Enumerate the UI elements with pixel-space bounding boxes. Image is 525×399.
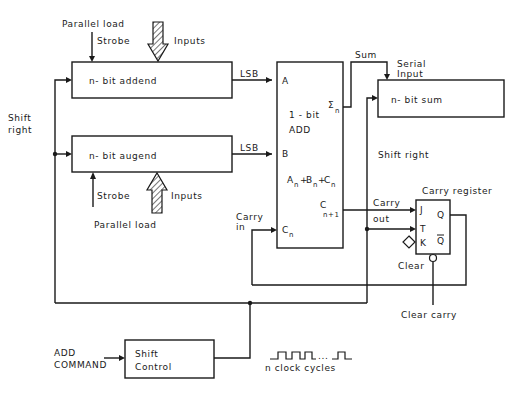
augend-lsb-arrowhead [266, 151, 272, 157]
addend-register: n- bit addend [72, 62, 232, 98]
clear-bubble-icon [430, 255, 437, 262]
carry-pin-k: K [420, 238, 427, 248]
adder-label-line2: ADD [289, 125, 311, 135]
shift-bus-right-vertical [367, 98, 372, 303]
carry-pin-q: Q [437, 210, 445, 220]
augend-shift-arrowhead [66, 151, 72, 157]
carry-in-line2: in [236, 222, 245, 232]
clear-carry-label: Clear carry [401, 310, 457, 320]
clock-label: n clock cycles [265, 363, 336, 373]
augend-register: n- bit augend [72, 136, 232, 172]
serial-input-line2: Input [397, 69, 423, 79]
serial-input-line1: Serial [397, 59, 426, 69]
adder-eq-b: B [306, 175, 313, 185]
adder-eq-a: A [287, 175, 294, 185]
addend-inputs-label: Inputs [174, 36, 206, 46]
add-command-line2: COMMAND [54, 360, 107, 370]
carry-register-title: Carry register [422, 186, 492, 196]
carry-clock-arrowhead [410, 226, 416, 232]
adder-eq-c: C [324, 175, 331, 185]
serial-adder-diagram: n- bit addend Parallel load Strobe Input… [0, 0, 525, 399]
add-command-arrowhead [119, 355, 125, 361]
augend-lsb-label: LSB [240, 143, 259, 153]
shift-right-label-line1: Shift [8, 113, 31, 123]
adder-pin-a: A [282, 76, 289, 86]
shift-bus-left-vertical [55, 80, 66, 303]
addend-inputs-arrow-icon [148, 22, 168, 61]
shift-control-box [125, 340, 214, 378]
adder-carry-out-sub: n+1 [323, 211, 340, 219]
clock-waveform-last-icon [332, 352, 352, 359]
addend-register-label: n- bit addend [89, 76, 157, 86]
augend-strobe-arrowhead [90, 172, 96, 179]
adder-label-line1: 1 - bit [289, 110, 320, 120]
adder-sum-out-sub: n [335, 107, 340, 115]
adder-carry-out-pin: C [320, 200, 327, 210]
addend-shift-arrowhead [66, 77, 72, 83]
adder-pin-cn: C [282, 225, 289, 235]
addend-strobe-arrowhead [89, 56, 95, 62]
shift-control-line1: Shift [135, 349, 158, 359]
addend-lsb-arrowhead [266, 77, 272, 83]
sum-label: Sum [355, 50, 377, 60]
carry-in-arrowhead [271, 227, 277, 233]
augend-strobe-label: Strobe [97, 191, 130, 201]
k-input-diamond-icon [403, 236, 415, 248]
clock-waveform-icon [270, 352, 316, 359]
shift-right-label-line2: right [8, 125, 32, 135]
carry-pin-t: T [419, 224, 426, 234]
addend-lsb-label: LSB [240, 69, 259, 79]
carry-pin-j: J [419, 205, 423, 215]
junction-dot-carry-clock [365, 227, 369, 231]
carry-pin-qbar: Q [437, 236, 445, 246]
adder-sum-out-pin: Σ [328, 100, 334, 110]
augend-parallel-load-label: Parallel load [94, 220, 157, 230]
augend-register-label: n- bit augend [89, 151, 157, 161]
carry-out-line2: out [373, 214, 390, 224]
adder-pin-cn-sub: n [289, 231, 294, 239]
addend-strobe-label: Strobe [97, 36, 130, 46]
junction-dot-augend [53, 152, 57, 156]
augend-inputs-label: Inputs [171, 191, 203, 201]
augend-inputs-arrow-icon [147, 173, 167, 213]
add-command-line1: ADD [54, 348, 76, 358]
adder-eq-c-sub: n [331, 181, 336, 189]
adder-eq-a-sub: n [294, 181, 299, 189]
carry-out-line1: Carry [373, 198, 400, 208]
adder-pin-b: B [282, 149, 289, 159]
clear-label: Clear [398, 261, 425, 271]
shift-control-line2: Control [135, 362, 172, 372]
sum-arrowhead [384, 74, 390, 80]
sum-shift-arrowhead [372, 95, 378, 101]
carry-out-arrowhead [410, 207, 416, 213]
carry-in-line [252, 230, 271, 285]
shift-control-output-line [214, 303, 250, 358]
addend-parallel-load-label: Parallel load [62, 19, 125, 29]
clock-dots: ... [318, 351, 328, 361]
shift-right-mid-label: Shift right [378, 150, 429, 160]
sum-register-label: n- bit sum [391, 95, 443, 105]
carry-in-line1: Carry [236, 212, 263, 222]
